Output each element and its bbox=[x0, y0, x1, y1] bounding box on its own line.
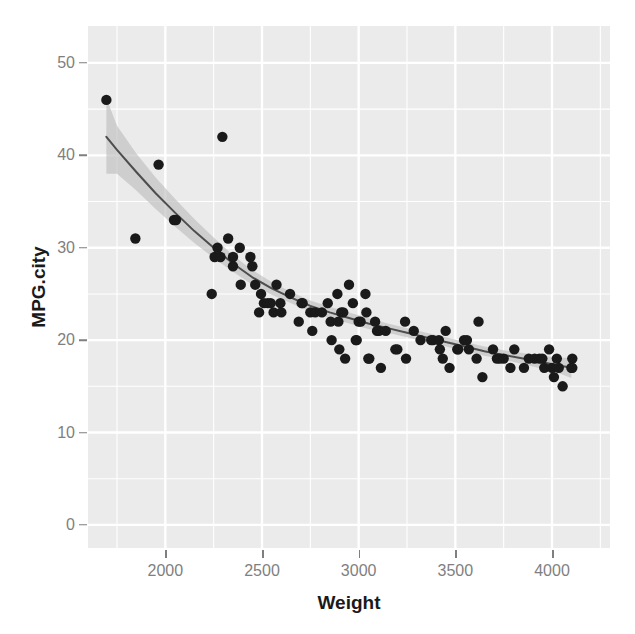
x-tick-mark bbox=[359, 550, 361, 558]
x-tick-mark bbox=[455, 550, 457, 558]
x-tick-label: 2000 bbox=[125, 562, 205, 580]
x-tick-mark bbox=[262, 550, 264, 558]
x-axis: 20002500300035004000 bbox=[0, 0, 635, 634]
x-axis-title: Weight bbox=[88, 592, 610, 614]
ggplot-scatter-chart: 01020304050 20002500300035004000 MPG.cit… bbox=[0, 0, 635, 634]
y-axis-title: MPG.city bbox=[26, 26, 52, 548]
x-tick-label: 2500 bbox=[222, 562, 302, 580]
x-tick-mark bbox=[552, 550, 554, 558]
x-tick-label: 3500 bbox=[415, 562, 495, 580]
x-tick-label: 4000 bbox=[512, 562, 592, 580]
x-tick-mark bbox=[165, 550, 167, 558]
x-tick-label: 3000 bbox=[319, 562, 399, 580]
